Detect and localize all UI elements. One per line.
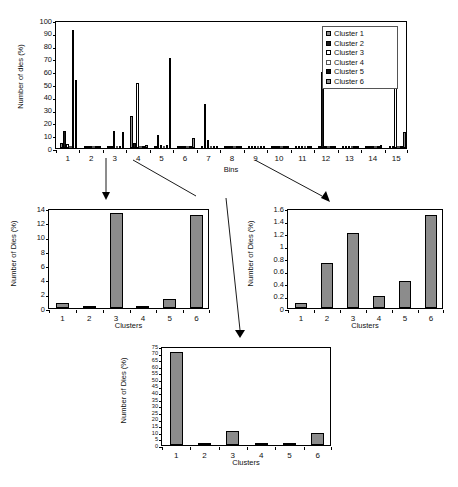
x-tick-mark bbox=[76, 310, 77, 313]
y-tick-label: 14 bbox=[31, 206, 45, 214]
y-tick-mark bbox=[46, 253, 49, 254]
x-tick-mark bbox=[314, 310, 315, 313]
x-tick-mark bbox=[247, 447, 248, 450]
sub-bar bbox=[399, 281, 410, 309]
y-tick-mark bbox=[159, 374, 162, 375]
x-tick-mark bbox=[314, 150, 315, 153]
y-tick-label: 5 bbox=[144, 437, 158, 443]
y-tick-mark bbox=[159, 361, 162, 362]
y-tick-mark bbox=[285, 223, 288, 224]
y-tick-mark bbox=[285, 298, 288, 299]
main-bar bbox=[145, 145, 148, 148]
y-tick-label: 0 bbox=[31, 306, 45, 314]
x-tick-mark bbox=[49, 310, 50, 313]
y-tick-mark bbox=[159, 440, 162, 441]
x-tick-label: 9 bbox=[245, 154, 265, 163]
x-tick-mark bbox=[56, 150, 57, 153]
x-tick-mark bbox=[407, 150, 408, 153]
y-tick-label: 1.4 bbox=[266, 218, 284, 226]
y-tick-label: 50 bbox=[144, 378, 158, 384]
legend-swatch-icon bbox=[326, 69, 331, 74]
main-bar bbox=[309, 146, 312, 148]
y-tick-mark bbox=[159, 355, 162, 356]
x-tick-label: 12 bbox=[316, 154, 336, 163]
y-tick-mark bbox=[159, 434, 162, 435]
legend-label: Cluster 2 bbox=[334, 40, 364, 48]
x-tick-mark bbox=[392, 310, 393, 313]
y-tick-label: 20 bbox=[144, 417, 158, 423]
y-tick-mark bbox=[53, 60, 56, 61]
x-tick-label: 8 bbox=[222, 154, 242, 163]
y-tick-label: 30 bbox=[144, 404, 158, 410]
x-tick-mark bbox=[361, 150, 362, 153]
sub-bar bbox=[321, 263, 332, 308]
main-y-axis-label: Number of dies (%) bbox=[16, 33, 25, 121]
y-tick-label: 10 bbox=[144, 431, 158, 437]
y-tick-label: 0.4 bbox=[266, 281, 284, 289]
sub-left-plot-area: 02468101214123456 bbox=[48, 209, 209, 309]
y-tick-mark bbox=[159, 368, 162, 369]
y-tick-label: 1 bbox=[266, 243, 284, 251]
y-tick-mark bbox=[53, 137, 56, 138]
sub-chart-bottom: Number of Dies (%) 051015202530354045505… bbox=[110, 338, 370, 468]
legend-item[interactable]: Cluster 6 bbox=[326, 77, 393, 87]
legend-item[interactable]: Cluster 5 bbox=[326, 67, 393, 77]
sub-bar bbox=[347, 233, 358, 308]
main-bar bbox=[333, 146, 336, 148]
sub-bottom-y-axis-label: Number of Dies (%) bbox=[119, 347, 128, 435]
legend-item[interactable]: Cluster 2 bbox=[326, 39, 393, 49]
main-bar bbox=[380, 145, 383, 148]
sub-bar bbox=[373, 296, 384, 308]
x-tick-label: 13 bbox=[339, 154, 359, 163]
x-tick-mark bbox=[130, 310, 131, 313]
x-tick-mark bbox=[197, 150, 198, 153]
main-bar bbox=[403, 132, 406, 148]
x-tick-label: 14 bbox=[363, 154, 383, 163]
legend-label: Cluster 6 bbox=[334, 78, 364, 86]
legend-item[interactable]: Cluster 1 bbox=[326, 29, 393, 39]
main-bar bbox=[286, 146, 289, 148]
y-tick-mark bbox=[159, 394, 162, 395]
x-tick-mark bbox=[340, 310, 341, 313]
y-tick-mark bbox=[285, 210, 288, 211]
x-tick-mark bbox=[103, 150, 104, 153]
cluster-legend: Cluster 1Cluster 2Cluster 3Cluster 4Clus… bbox=[322, 26, 398, 89]
y-tick-label: 8 bbox=[31, 249, 45, 257]
legend-item[interactable]: Cluster 4 bbox=[326, 58, 393, 68]
y-tick-label: 10 bbox=[34, 133, 52, 141]
x-tick-mark bbox=[219, 447, 220, 450]
y-tick-label: 30 bbox=[34, 107, 52, 115]
y-tick-label: 20 bbox=[34, 120, 52, 128]
sub-left-y-axis-label: Number of Dies (%) bbox=[9, 210, 18, 298]
y-tick-label: 0 bbox=[266, 306, 284, 314]
y-tick-mark bbox=[46, 281, 49, 282]
y-tick-label: 70 bbox=[144, 351, 158, 357]
x-tick-label: 2 bbox=[81, 154, 101, 163]
legend-item[interactable]: Cluster 3 bbox=[326, 48, 393, 58]
x-tick-mark bbox=[291, 150, 292, 153]
x-tick-label: 11 bbox=[292, 154, 312, 163]
sub-bar bbox=[110, 213, 123, 308]
main-bar bbox=[98, 146, 101, 148]
legend-label: Cluster 5 bbox=[334, 68, 364, 76]
y-tick-label: 70 bbox=[34, 56, 52, 64]
legend-label: Cluster 3 bbox=[334, 49, 364, 57]
y-tick-mark bbox=[285, 235, 288, 236]
y-tick-label: 90 bbox=[34, 30, 52, 38]
x-tick-mark bbox=[385, 150, 386, 153]
x-tick-label: 10 bbox=[269, 154, 289, 163]
y-tick-label: 40 bbox=[144, 391, 158, 397]
x-tick-mark bbox=[103, 310, 104, 313]
sub-bar bbox=[56, 303, 69, 308]
y-tick-mark bbox=[46, 239, 49, 240]
sub-bar bbox=[136, 306, 149, 308]
x-tick-mark bbox=[126, 150, 127, 153]
sub-bar bbox=[198, 443, 211, 445]
sub-bottom-x-axis-label: Clusters bbox=[161, 458, 331, 467]
x-tick-mark bbox=[162, 447, 163, 450]
y-tick-label: 55 bbox=[144, 371, 158, 377]
y-tick-label: 65 bbox=[144, 358, 158, 364]
y-tick-mark bbox=[285, 260, 288, 261]
x-tick-label: 4 bbox=[128, 154, 148, 163]
main-bar bbox=[192, 138, 195, 148]
